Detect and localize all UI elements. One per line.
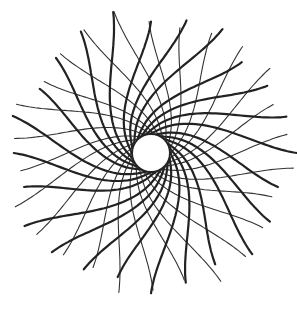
- center-hole: [133, 135, 169, 171]
- spiral-rosette: [0, 0, 297, 310]
